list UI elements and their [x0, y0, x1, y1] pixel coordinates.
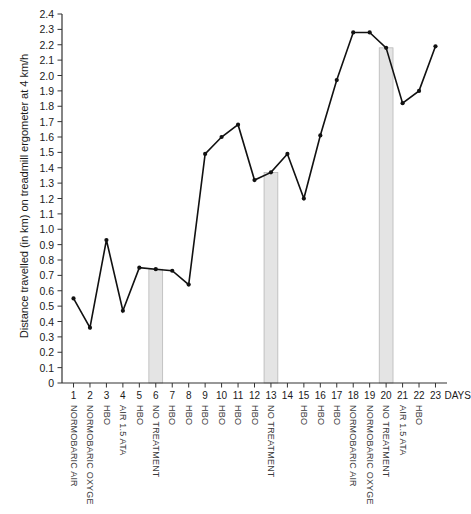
- y-axis-tick-label: 1.7: [18, 117, 54, 128]
- data-point: [203, 152, 207, 156]
- data-point: [302, 196, 306, 200]
- y-axis-tick-label: 0.5: [18, 301, 54, 312]
- y-axis-tick-label: 2.2: [18, 40, 54, 51]
- data-point: [384, 46, 388, 50]
- y-axis-tick-label: 0.9: [18, 240, 54, 251]
- data-point: [219, 135, 223, 139]
- data-point: [368, 30, 372, 34]
- data-point: [104, 238, 108, 242]
- y-axis-tick-label: 1.2: [18, 194, 54, 205]
- treatment-label: HBO: [167, 405, 176, 425]
- treatment-label: NORMOBARIC AIR: [69, 405, 78, 487]
- data-point: [121, 309, 125, 313]
- no-treatment-band: [264, 172, 278, 383]
- no-treatment-band: [149, 269, 163, 383]
- data-point: [433, 44, 437, 48]
- data-point: [318, 133, 322, 137]
- x-axis-title: DAYS: [444, 391, 471, 401]
- data-point: [285, 152, 289, 156]
- data-point: [236, 123, 240, 127]
- treatment-label: NORMOBARIC AIR: [348, 405, 357, 487]
- y-axis-tick-label: 1.8: [18, 101, 54, 112]
- y-axis-tick-label: 2.3: [18, 24, 54, 35]
- data-point: [252, 178, 256, 182]
- treatment-label: HBO: [299, 405, 308, 425]
- treatment-label: HBO: [316, 405, 325, 425]
- data-point: [335, 78, 339, 82]
- y-axis-tick-label: 0.2: [18, 347, 54, 358]
- treatment-label: HBO: [200, 405, 209, 425]
- chart-svg: [62, 14, 447, 383]
- y-axis-tick-label: 1.9: [18, 86, 54, 97]
- axis-ticks: [58, 14, 436, 388]
- y-axis-tick-label: 0.6: [18, 286, 54, 297]
- data-point: [417, 89, 421, 93]
- no-treatment-band: [379, 48, 393, 383]
- y-axis-tick-label: 1.3: [18, 178, 54, 189]
- y-axis-tick-label: 0.3: [18, 332, 54, 343]
- no-treatment-bands: [149, 48, 393, 383]
- treatment-label: NO TREATMENT: [151, 405, 160, 478]
- y-axis-tick-label: 0.8: [18, 255, 54, 266]
- treatment-label: HBO: [414, 405, 423, 425]
- y-axis-tick-label: 1.5: [18, 147, 54, 158]
- data-point: [269, 170, 273, 174]
- data-point: [88, 326, 92, 330]
- y-axis-tick-label: 0.4: [18, 317, 54, 328]
- treatment-label: HBO: [217, 405, 226, 425]
- treatment-label: HBO: [250, 405, 259, 425]
- treatment-label: NO TREATMENT: [266, 405, 275, 478]
- data-point: [351, 30, 355, 34]
- treatment-label: HBO: [135, 405, 144, 425]
- treatment-label: HBO: [332, 405, 341, 425]
- data-point: [154, 267, 158, 271]
- data-point: [400, 101, 404, 105]
- treatment-label: HBO: [184, 405, 193, 425]
- x-axis-tick-label: 23: [425, 391, 445, 401]
- treatment-label: NO TREATMENT: [381, 405, 390, 478]
- data-point: [187, 283, 191, 287]
- treatment-label: HBO: [102, 405, 111, 425]
- y-axis-tick-label: 1.4: [18, 163, 54, 174]
- y-axis-tick-label: 0: [18, 378, 54, 389]
- y-axis-tick-label: 0.1: [18, 363, 54, 374]
- treatment-label: HBO: [233, 405, 242, 425]
- y-axis-tick-label: 1.0: [18, 224, 54, 235]
- treatment-label: NORMOBARIC OXYGE: [365, 405, 374, 505]
- plot-area: [62, 14, 447, 383]
- treatment-label: AIR 1.5 ATA: [398, 405, 407, 455]
- data-point: [170, 269, 174, 273]
- y-axis-tick-label: 2.0: [18, 71, 54, 82]
- y-axis-tick-label: 0.7: [18, 270, 54, 281]
- y-axis-tick-label: 2.4: [18, 9, 54, 20]
- y-axis-tick-label: 1.6: [18, 132, 54, 143]
- treatment-label: NORMOBARIC OXYGE: [85, 405, 94, 505]
- data-point: [71, 296, 75, 300]
- y-axis-tick-label: 2.1: [18, 55, 54, 66]
- treatment-label: AIR 1.5 ATA: [118, 405, 127, 455]
- data-point: [137, 266, 141, 270]
- y-axis-tick-label: 1.1: [18, 209, 54, 220]
